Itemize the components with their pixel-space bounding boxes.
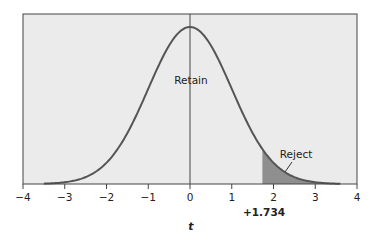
x-tick-label: −3 <box>57 191 72 203</box>
critical-value-label: +1.734 <box>243 206 285 218</box>
x-axis-title: t <box>188 220 194 233</box>
x-tick-label: −1 <box>141 191 156 203</box>
x-tick-label: 2 <box>270 191 277 203</box>
x-tick-label: −2 <box>99 191 114 203</box>
x-tick-label: 4 <box>354 191 361 203</box>
t-distribution-chart: −4−3−2−101234 Retain Reject +1.734 t <box>0 0 376 241</box>
reject-label: Reject <box>280 148 313 160</box>
x-tick-label: −4 <box>15 191 31 203</box>
x-tick-label: 3 <box>312 191 319 203</box>
x-tick-label: 1 <box>228 191 235 203</box>
x-axis: −4−3−2−101234 <box>15 184 360 203</box>
x-tick-label: 0 <box>187 191 194 203</box>
retain-label: Retain <box>174 74 207 86</box>
